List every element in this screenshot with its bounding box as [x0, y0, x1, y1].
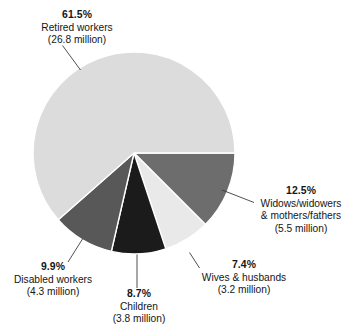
- slice-amount-retired-workers: (26.8 million): [14, 34, 140, 46]
- slice-amount-widows-widowers: (5.5 million): [256, 223, 346, 235]
- slice-percent-disabled-workers: 9.9%: [0, 261, 106, 274]
- leader-line-widows: [222, 190, 254, 203]
- slice-percent-children: 8.7%: [92, 288, 186, 301]
- slice-percent-wives-husbands: 7.4%: [188, 259, 300, 272]
- pie-slice-group: [33, 52, 235, 254]
- leader-line-retired: [63, 46, 81, 71]
- slice-label-wives-husbands: 7.4% Wives & husbands (3.2 million): [188, 259, 300, 297]
- slice-name-disabled-workers: Disabled workers: [0, 274, 106, 286]
- slice-name-children: Children: [92, 301, 186, 313]
- slice-label-disabled-workers: 9.9% Disabled workers (4.3 million): [0, 261, 106, 299]
- slice-amount-disabled-workers: (4.3 million): [0, 286, 106, 298]
- leader-line-disabled: [68, 239, 83, 262]
- slice-label-children: 8.7% Children (3.8 million): [92, 288, 186, 326]
- slice-name-retired-workers: Retired workers: [14, 22, 140, 34]
- slice-percent-widows-widowers: 12.5%: [256, 185, 346, 198]
- pie-chart: 61.5% Retired workers (26.8 million) 12.…: [0, 0, 346, 334]
- slice-percent-retired-workers: 61.5%: [14, 9, 140, 22]
- slice-name-widows-widowers-line1: Widows/widowers: [256, 198, 346, 210]
- slice-label-widows-widowers: 12.5% Widows/widowers & mothers/fathers …: [256, 185, 346, 235]
- slice-label-retired-workers: 61.5% Retired workers (26.8 million): [14, 9, 140, 47]
- slice-name-widows-widowers-line2: & mothers/fathers: [256, 210, 346, 222]
- slice-name-wives-husbands: Wives & husbands: [188, 272, 300, 284]
- slice-amount-children: (3.8 million): [92, 313, 186, 325]
- slice-amount-wives-husbands: (3.2 million): [188, 284, 300, 296]
